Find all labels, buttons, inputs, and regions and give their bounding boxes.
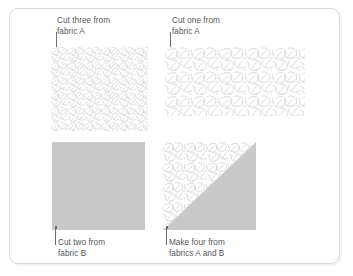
piece-top-left — [51, 47, 148, 131]
piece-top-right — [165, 47, 305, 116]
piece-bottom-right — [163, 142, 256, 230]
label-top-right: Cut one from fabric A — [172, 16, 220, 37]
figure-canvas: Cut three from fabric A — [0, 0, 353, 276]
label-bottom-right: Make four from fabrics A and B — [169, 238, 225, 259]
label-bottom-left: Cut two from fabric B — [58, 238, 105, 259]
leader-line-bottom-right — [166, 229, 167, 245]
label-top-left: Cut three from fabric A — [57, 16, 110, 37]
leaf-print-fill-large — [165, 47, 305, 116]
piece-bottom-left — [52, 142, 145, 230]
leaf-print-fill-small — [51, 47, 148, 131]
leader-line-bottom-left — [55, 229, 56, 245]
